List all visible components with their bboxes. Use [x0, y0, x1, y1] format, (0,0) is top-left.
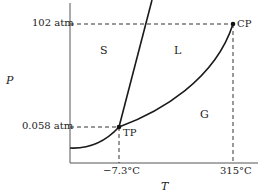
y-axis-label: P [6, 75, 13, 86]
fusion-curve [119, 0, 152, 127]
region-solid-label: S [100, 45, 108, 56]
vaporization-curve [119, 24, 233, 127]
triple-point-label: TP [123, 128, 136, 138]
phase-diagram: 102 atm 0.058 atm −7.3°C 315°C P T S L G… [0, 0, 261, 192]
y-tick-102atm: 102 atm [32, 18, 74, 28]
region-gas-label: G [200, 109, 209, 120]
critical-point-label: CP [237, 19, 251, 29]
region-liquid-label: L [174, 45, 181, 56]
critical-point-dot [231, 22, 236, 27]
x-axis-label: T [161, 181, 168, 192]
x-tick-neg7-3c: −7.3°C [103, 166, 140, 176]
sublimation-curve [70, 127, 119, 148]
triple-point-dot [117, 125, 122, 130]
x-tick-315c: 315°C [220, 166, 252, 176]
y-tick-0058atm: 0.058 atm [22, 121, 73, 131]
